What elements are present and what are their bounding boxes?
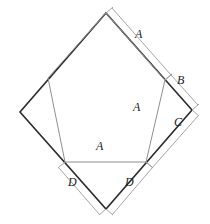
dimension-D-left — [58, 162, 106, 215]
dimension-A-top — [106, 7, 172, 80]
dimension-C-right — [146, 110, 199, 168]
geometry-figure: A B C A A D D — [0, 0, 210, 224]
inner-pentagon-shape — [48, 13, 165, 162]
diagram-canvas — [0, 0, 210, 224]
label-a-diagonal: A — [133, 101, 140, 113]
label-d-left: D — [68, 176, 77, 188]
label-b-right: B — [177, 74, 184, 86]
label-c-right: C — [174, 116, 182, 128]
label-a-horizontal: A — [96, 140, 103, 152]
label-d-right: D — [125, 176, 134, 188]
outer-square-shape — [20, 13, 192, 209]
label-a-top-right: A — [135, 28, 142, 40]
